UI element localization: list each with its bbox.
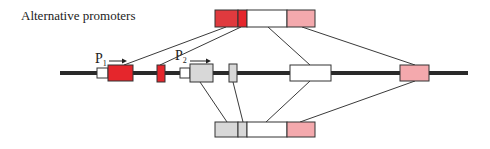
alternative-promoters-diagram: P1 P2 — [0, 0, 490, 149]
top-exon-white — [247, 10, 287, 27]
bottom-exon-pink — [287, 122, 315, 137]
exon-white — [290, 65, 331, 81]
bottom-exon-white — [247, 122, 287, 137]
top-transcript — [215, 10, 315, 27]
exon-pink — [400, 65, 429, 81]
bottom-exon-grey-2 — [238, 122, 247, 137]
exon-grey-1 — [190, 64, 213, 82]
top-connectors — [124, 27, 415, 65]
top-exon-pink — [287, 10, 315, 27]
top-exon-red — [238, 10, 247, 27]
p1-arrow-icon — [122, 59, 127, 64]
bottom-connectors — [200, 81, 415, 122]
promoter-p2: P2 — [175, 48, 211, 65]
p2-arrow-icon — [206, 59, 211, 64]
exon-1-red — [108, 65, 133, 81]
exon-grey-2 — [229, 64, 237, 82]
exon-2-red — [157, 65, 165, 82]
p1-label: P1 — [95, 51, 107, 68]
p2-utr — [180, 68, 190, 78]
p1-utr — [97, 68, 108, 78]
bottom-exon-grey-1 — [215, 122, 238, 137]
p2-label: P2 — [175, 48, 187, 65]
top-exon-dark-red — [215, 10, 238, 27]
bottom-transcript — [215, 122, 315, 137]
